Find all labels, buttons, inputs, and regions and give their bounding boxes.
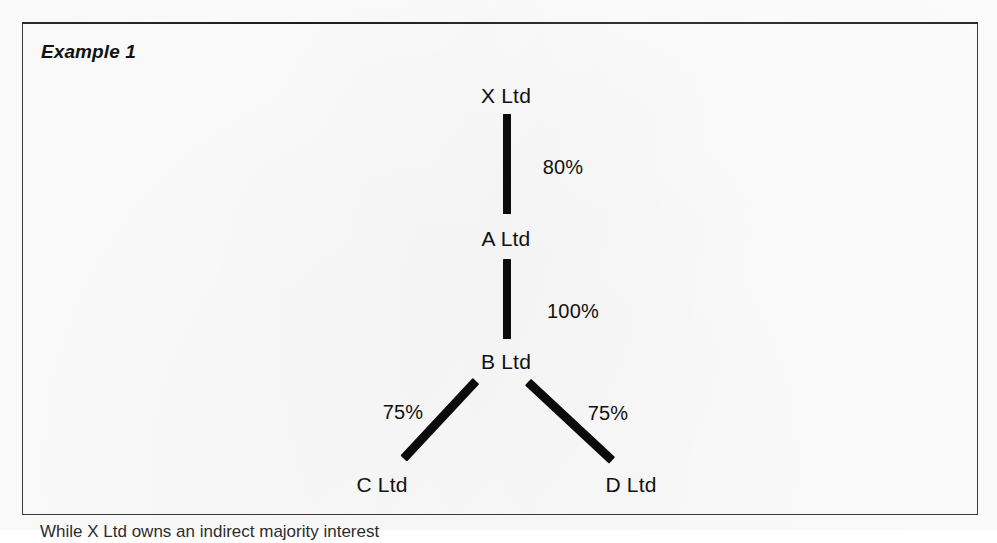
body-paragraph-below-figure: While X Ltd owns an indirect majority in… <box>40 521 970 543</box>
connector-x-to-a <box>503 114 511 214</box>
node-x-ltd: X Ltd <box>481 84 531 108</box>
node-d-ltd: D Ltd <box>605 473 656 497</box>
edge-label-b-d: 75% <box>588 402 629 425</box>
node-b-ltd: B Ltd <box>481 350 531 374</box>
node-a-ltd: A Ltd <box>482 227 531 251</box>
ownership-tree-diagram: X Ltd A Ltd B Ltd C Ltd D Ltd 80% 100% 7… <box>23 23 977 514</box>
edge-label-b-c: 75% <box>383 401 424 424</box>
edge-label-a-b: 100% <box>547 300 599 323</box>
figure-frame: Example 1 X Ltd A Ltd B Ltd C Ltd D Ltd … <box>22 22 978 515</box>
edge-label-x-a: 80% <box>543 156 584 179</box>
connector-a-to-b <box>503 259 511 339</box>
node-c-ltd: C Ltd <box>356 473 407 497</box>
